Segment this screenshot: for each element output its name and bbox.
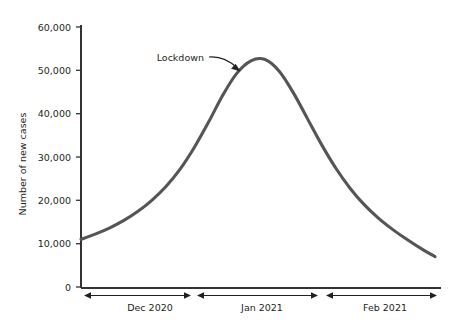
chart-container: 60,000 50,000 40,000 30,000 20,000 10,00… [0,0,455,325]
y-tick-label-20000: 20,000 [38,195,71,206]
y-tick-label-50000: 50,000 [38,65,71,76]
y-axis-title: Number of new cases [17,113,28,216]
case-curve-line [81,59,435,257]
annotation-arrow-head [232,64,241,71]
month-span-jan-2021 [197,292,318,299]
span-arrow-right-dec [184,292,191,299]
span-arrow-right-feb [430,292,437,299]
x-axis-label-dec-2020: Dec 2020 [127,302,173,313]
month-span-feb-2021 [326,292,437,299]
lockdown-annotation-label: Lockdown [157,52,204,63]
span-arrow-left-feb [326,292,333,299]
span-arrow-left-jan [197,292,204,299]
y-tick-label-60000: 60,000 [38,22,71,33]
x-axis-label-jan-2021: Jan 2021 [240,302,283,313]
case-curve-chart: 60,000 50,000 40,000 30,000 20,000 10,00… [0,0,455,325]
x-axis-month-spans [84,292,437,299]
span-arrow-left-dec [84,292,91,299]
y-tick-label-40000: 40,000 [38,108,71,119]
month-span-dec-2020 [84,292,191,299]
y-tick-label-10000: 10,000 [38,238,71,249]
lockdown-annotation-arrow [209,57,240,71]
annotation-arrow-line [209,57,237,68]
span-arrow-right-jan [311,292,318,299]
y-tick-label-0: 0 [65,282,71,293]
y-tick-label-30000: 30,000 [38,152,71,163]
x-axis-label-feb-2021: Feb 2021 [363,302,407,313]
